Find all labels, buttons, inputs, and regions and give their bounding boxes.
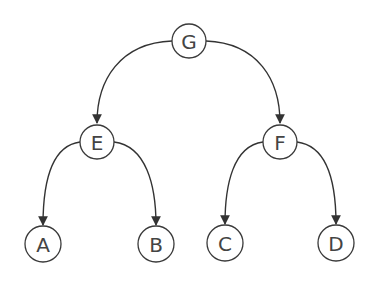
node-label: G: [181, 30, 197, 54]
edge-g-e: [97, 41, 172, 123]
edge-f-c: [225, 142, 263, 224]
node-label: E: [91, 131, 104, 155]
edge-e-b: [114, 142, 156, 225]
edge-f-d: [297, 142, 336, 224]
edge-g-f: [206, 41, 280, 123]
tree-diagram: G E F A B C D: [0, 0, 373, 284]
node-a: A: [25, 226, 61, 262]
node-e: E: [80, 125, 114, 159]
node-c: C: [207, 225, 243, 261]
node-label: C: [218, 232, 232, 256]
edge-e-a: [43, 142, 80, 225]
node-b: B: [138, 226, 174, 262]
node-f: F: [263, 125, 297, 159]
node-label: F: [274, 131, 286, 155]
node-label: D: [328, 232, 343, 256]
node-g: G: [172, 24, 206, 58]
node-label: A: [36, 233, 50, 257]
node-d: D: [318, 225, 354, 261]
node-label: B: [149, 233, 163, 257]
